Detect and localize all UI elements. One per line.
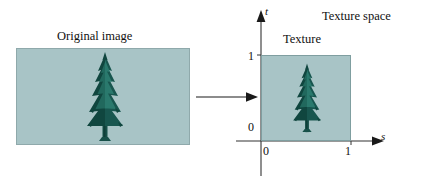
s-axis-label: s	[381, 131, 385, 142]
s-axis-tick-label-1: 1	[345, 145, 351, 157]
t-axis-tick-label-1: 1	[248, 50, 254, 62]
t-axis-tick-label-0: 0	[248, 121, 254, 133]
pine-tree-icon	[287, 62, 327, 136]
original-image-title: Original image	[57, 30, 132, 43]
pine-tree-icon	[79, 52, 131, 144]
original-image-frame	[16, 48, 190, 145]
t-axis-label: t	[265, 6, 268, 17]
texture-mapping-figure: Original image	[0, 0, 424, 180]
s-axis-tick-label-0: 0	[263, 145, 269, 157]
texture-unit-square	[261, 55, 351, 141]
